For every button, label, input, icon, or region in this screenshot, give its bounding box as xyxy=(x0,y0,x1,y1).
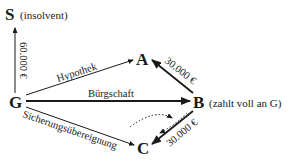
edge-g-c-label: Sicherungsübereignung xyxy=(21,108,119,151)
edge-g-s-label: 60.000 € xyxy=(18,42,29,80)
node-a: A xyxy=(136,50,149,69)
node-s-note: (insolvent) xyxy=(20,9,68,22)
node-b-note: (zahlt voll an G) xyxy=(209,97,282,110)
edge-g-a-label: Hypothek xyxy=(55,60,98,83)
node-c: C xyxy=(137,139,149,158)
edge-b-a-label: 30.000 € xyxy=(163,55,199,87)
edge-c-loop-a xyxy=(130,115,172,127)
node-g: G xyxy=(9,93,22,112)
node-b: B xyxy=(193,93,204,112)
diagram: S (insolvent) A G B (zahlt voll an G) C … xyxy=(0,0,291,160)
node-s: S xyxy=(5,5,14,24)
edge-g-b-label: Bürgschaft xyxy=(88,88,134,99)
